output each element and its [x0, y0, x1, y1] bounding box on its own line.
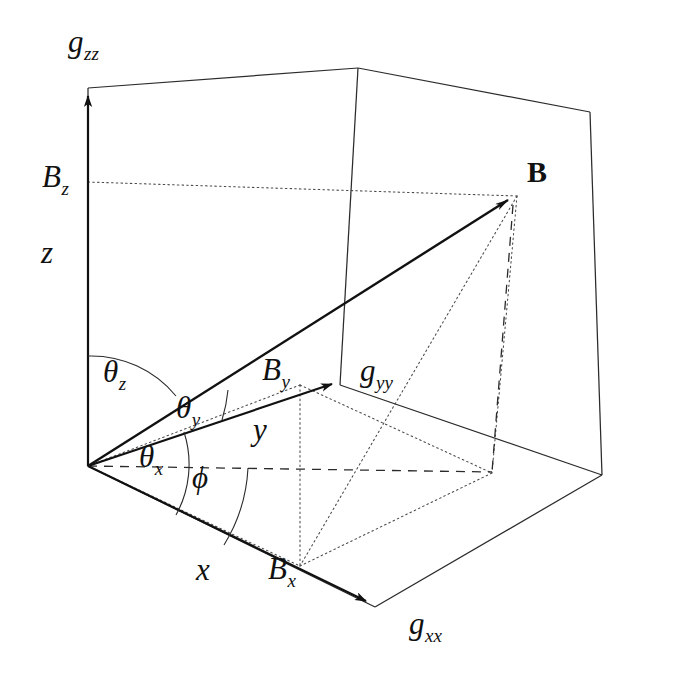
vector-diagram-svg: [0, 0, 676, 677]
label-b-y: By: [262, 354, 290, 391]
label-b-z: Bz: [42, 161, 69, 198]
label-axis-z: z: [41, 237, 53, 268]
label-b-x: Bx: [268, 553, 296, 590]
label-phi: ϕ: [192, 462, 208, 493]
box-edge-right-vertical: [590, 112, 602, 475]
projection-bz-to-b: [88, 182, 517, 196]
axis-x-arrow: [88, 466, 366, 601]
label-g-xx: gxx: [409, 608, 442, 645]
box-edge-inner-vertical: [340, 68, 358, 385]
arc-theta-y: [222, 390, 228, 420]
vector-b-arrow: [88, 200, 508, 466]
label-axis-x: x: [196, 554, 210, 585]
figure-canvas: gzz Bz z B θz θy θx ϕ By y gyy x Bx gxx: [0, 0, 676, 677]
arc-theta-z: [88, 356, 176, 396]
label-theta-x: θx: [139, 441, 163, 478]
arc-theta-x: [176, 432, 189, 515]
label-vector-b: B: [527, 157, 547, 187]
dashed-b-vertical-drop: [492, 205, 513, 472]
label-g-zz: gzz: [68, 26, 99, 63]
projection-b-to-xfoot: [300, 196, 517, 566]
label-theta-y: θy: [176, 392, 200, 429]
box-edge-floor-right: [340, 385, 602, 475]
box-edge-top-right: [358, 68, 590, 112]
projection-yfoot-to-floorpt: [300, 385, 492, 473]
b-field-vector: [88, 200, 508, 466]
bounding-box: [88, 68, 602, 607]
label-g-yy: gyy: [360, 355, 393, 392]
axis-y-arrow: [88, 384, 332, 466]
label-theta-z: θz: [103, 356, 126, 393]
label-axis-y: y: [253, 414, 267, 445]
box-edge-top-left: [88, 68, 358, 88]
projection-xfoot-to-floorpt: [300, 473, 492, 566]
box-edge-floor-front-right: [375, 475, 602, 607]
